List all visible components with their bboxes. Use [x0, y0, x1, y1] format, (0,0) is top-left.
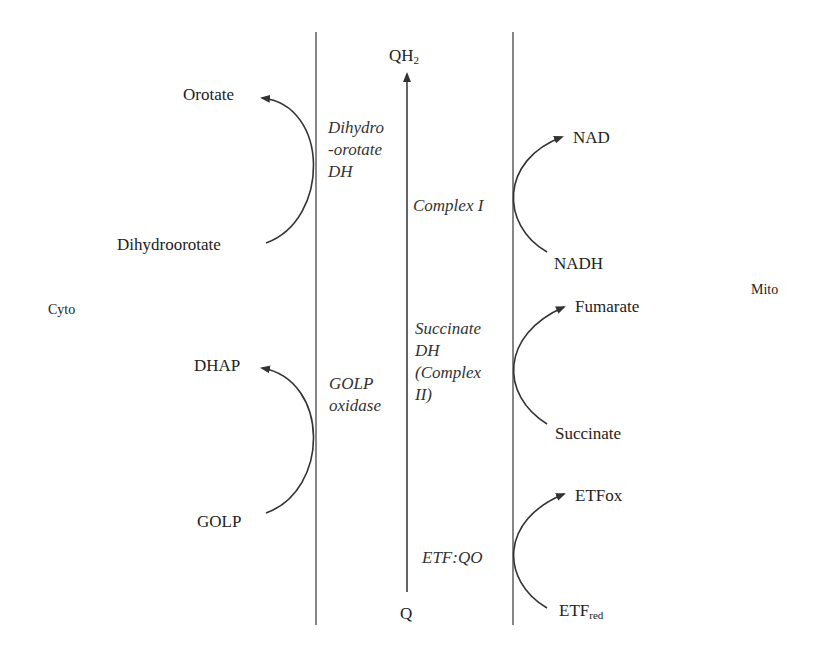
complex-ii-label: Succinate DH (Complex II)	[415, 318, 481, 406]
ubiquinone-label: Q	[400, 605, 412, 622]
dhodh-enzyme-label: Dihydro -orotate DH	[328, 117, 384, 183]
cytosol-label: Cyto	[48, 303, 75, 317]
succinate-to-fumarate-arrow	[514, 307, 564, 424]
ubiquinol-label: QH2	[389, 47, 419, 64]
dihydroorotate-to-orotate-arrow	[262, 98, 314, 243]
dhap-label: DHAP	[194, 357, 240, 374]
mitochondria-label: Mito	[751, 283, 778, 297]
golp-oxidase-label: GOLP oxidase	[329, 373, 381, 417]
dihydroorotate-label: Dihydroorotate	[117, 236, 221, 253]
nadh-label: NADH	[554, 255, 603, 272]
etfox-label: ETFox	[575, 487, 622, 504]
golp-to-dhap-arrow	[262, 368, 314, 513]
succinate-label: Succinate	[555, 425, 621, 442]
fumarate-label: Fumarate	[575, 298, 639, 315]
etf-qo-label: ETF:QO	[422, 547, 482, 569]
etfred-to-etfox-arrow	[514, 494, 564, 608]
nadh-to-nad-arrow	[513, 137, 562, 252]
etfred-label: ETFred	[559, 602, 603, 619]
orotate-label: Orotate	[183, 86, 234, 103]
golp-label: GOLP	[197, 513, 241, 530]
nad-label: NAD	[573, 129, 610, 146]
complex-i-label: Complex I	[413, 195, 483, 217]
